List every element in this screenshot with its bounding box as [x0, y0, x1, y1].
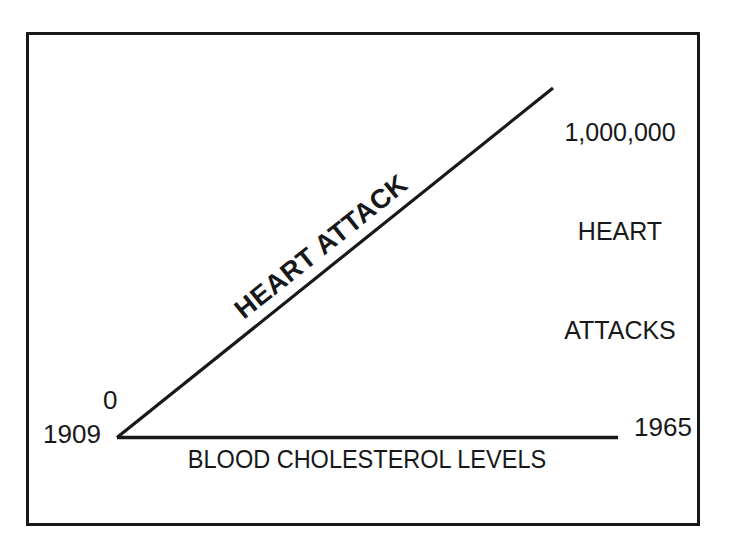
peak-value-line-1: 1,000,000 — [548, 116, 692, 149]
x-axis-start-label: 1909 — [43, 421, 101, 447]
peak-value-annotation: 1,000,000 HEART ATTACKS — [548, 50, 692, 413]
y-axis-origin-label: 0 — [103, 387, 117, 413]
peak-value-line-2: HEART — [548, 215, 692, 248]
x-axis-end-label: 1965 — [634, 414, 692, 440]
chart-figure: 1,000,000 HEART ATTACKS 0 1909 1965 BLOO… — [0, 0, 732, 557]
x-axis-title: BLOOD CHOLESTEROL LEVELS — [132, 447, 602, 472]
peak-value-line-3: ATTACKS — [548, 314, 692, 347]
